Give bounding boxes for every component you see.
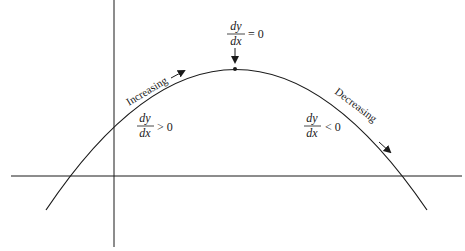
svg-text:dy: dy bbox=[230, 19, 242, 33]
svg-text:= 0: = 0 bbox=[248, 27, 264, 41]
svg-text:dx: dx bbox=[230, 34, 242, 48]
svg-text:dy: dy bbox=[139, 111, 151, 125]
maximum-point bbox=[233, 67, 237, 71]
svg-text:dy: dy bbox=[306, 111, 318, 125]
svg-text:> 0: > 0 bbox=[157, 120, 173, 134]
derivative-sign-diagram: dy dx = 0 Increasing dy dx > 0 Decreasin… bbox=[0, 0, 465, 251]
max-derivative-label: dy dx = 0 bbox=[227, 19, 264, 48]
parabola-curve bbox=[46, 70, 427, 211]
increasing-arrow bbox=[171, 71, 184, 78]
decreasing-label: Decreasing bbox=[333, 85, 380, 125]
svg-text:< 0: < 0 bbox=[325, 120, 341, 134]
decreasing-derivative-label: dy dx < 0 bbox=[304, 111, 341, 140]
svg-text:dx: dx bbox=[306, 126, 318, 140]
increasing-derivative-label: dy dx > 0 bbox=[137, 111, 173, 140]
svg-text:dx: dx bbox=[139, 126, 151, 140]
